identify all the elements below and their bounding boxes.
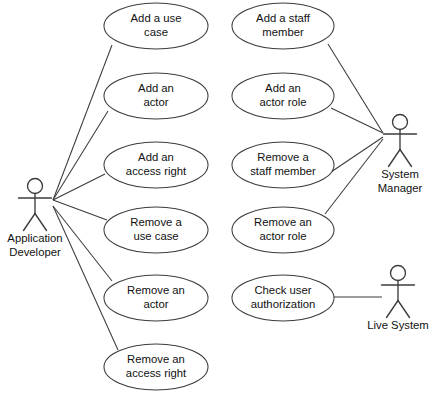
actor-head-icon (28, 179, 43, 194)
use-case-label-line1: Remove an (127, 353, 185, 365)
use-case-label-line2: actor (143, 96, 168, 108)
use-case-label-line1: Remove a (257, 151, 309, 163)
use-case-add-an-access-right[interactable]: Add anaccess right (104, 142, 208, 188)
use-case-label-line1: Add a staff (256, 12, 311, 24)
use-case-label-line2: access right (126, 367, 187, 379)
use-case-label-line2: authorization (251, 298, 316, 310)
use-case-label-line2: use case (133, 230, 178, 242)
use-case-label-line2: case (144, 26, 168, 38)
actor-label-line2: Developer (9, 246, 61, 258)
use-cases-group: Add a usecaseAdd anactorAdd anaccess rig… (104, 3, 334, 390)
use-case-label-line1: Add a use (131, 12, 182, 24)
association-line (331, 137, 383, 172)
use-case-remove-a-staff-member[interactable]: Remove astaff member (232, 142, 334, 188)
use-case-label-line2: actor role (259, 96, 306, 108)
use-case-add-an-actor[interactable]: Add anactor (104, 73, 208, 119)
actor-label-line1: Live System (367, 319, 429, 331)
actor-head-icon (391, 266, 406, 281)
actor-system-manager[interactable]: SystemManager (378, 115, 423, 195)
diagram-svg: Add a usecaseAdd anactorAdd anaccess rig… (0, 0, 439, 400)
association-line (325, 139, 383, 214)
actor-label-line2: Manager (378, 182, 423, 194)
use-case-add-an-actor-role[interactable]: Add anactor role (232, 73, 334, 119)
use-case-label-line1: Remove a (130, 216, 182, 228)
use-case-label-line2: actor (143, 298, 168, 310)
actor-leg-right-icon (398, 301, 410, 318)
actor-live-system[interactable]: Live System (367, 266, 429, 332)
use-case-label-line2: member (262, 26, 304, 38)
use-case-label-line1: Check user (254, 284, 311, 296)
association-line (53, 45, 112, 200)
use-case-remove-an-actor[interactable]: Remove anactor (104, 275, 208, 321)
use-case-label-line1: Remove an (127, 284, 185, 296)
use-case-check-user-authorization[interactable]: Check userauthorization (232, 275, 334, 321)
use-case-add-a-use-case[interactable]: Add a usecase (104, 3, 208, 49)
use-case-remove-an-actor-role[interactable]: Remove anactor role (232, 207, 334, 253)
use-case-label-line1: Add an (265, 82, 301, 94)
use-case-add-a-staff-member[interactable]: Add a staffmember (232, 3, 334, 49)
actor-application-developer[interactable]: ApplicationDeveloper (7, 179, 62, 259)
use-case-diagram-canvas: Add a usecaseAdd anactorAdd anaccess rig… (0, 0, 439, 400)
use-case-label-line2: actor role (259, 230, 306, 242)
actor-leg-left-icon (387, 301, 399, 318)
actor-label-line1: System (381, 168, 419, 180)
actor-leg-right-icon (35, 214, 47, 231)
actor-leg-left-icon (389, 150, 401, 167)
use-case-label-line1: Add an (138, 151, 174, 163)
use-case-remove-an-access-right[interactable]: Remove anaccess right (104, 344, 208, 390)
actor-head-icon (393, 115, 408, 130)
use-case-label-line1: Add an (138, 82, 174, 94)
association-lines-group (53, 44, 383, 350)
actor-leg-right-icon (400, 150, 412, 167)
actors-group: ApplicationDeveloperSystemManagerLive Sy… (7, 115, 428, 332)
actor-label-line1: Application (7, 232, 62, 244)
actor-leg-left-icon (24, 214, 36, 231)
use-case-remove-a-use-case[interactable]: Remove ause case (104, 207, 208, 253)
use-case-label-line1: Remove an (254, 216, 312, 228)
use-case-label-line2: access right (126, 165, 187, 177)
use-case-label-line2: staff member (250, 165, 316, 177)
